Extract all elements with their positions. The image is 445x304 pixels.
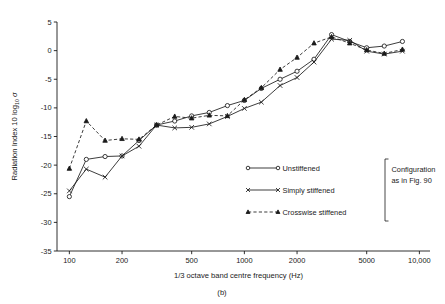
data-point-triangle bbox=[103, 138, 108, 142]
figure-caption: (b) bbox=[217, 288, 227, 297]
y-axis-ticks: 50-5-10-15-20-25-30-35 bbox=[41, 18, 57, 256]
radiation-index-chart: 50-5-10-15-20-25-30-35100200500100020005… bbox=[0, 0, 445, 304]
x-tick-label: 2000 bbox=[289, 256, 305, 265]
configuration-annotation: Configurationas in Fig. 90 bbox=[385, 159, 435, 221]
legend-item-unstiffened[interactable]: Unstiffened bbox=[246, 164, 320, 173]
data-point-circle bbox=[295, 69, 299, 73]
data-point-triangle bbox=[242, 97, 247, 101]
data-point-circle bbox=[382, 44, 386, 48]
data-point-cross bbox=[137, 144, 142, 149]
figure-container: 50-5-10-15-20-25-30-35100200500100020005… bbox=[0, 0, 445, 304]
data-point-cross bbox=[278, 83, 283, 88]
x-tick-label: 200 bbox=[116, 256, 128, 265]
chart-legend: UnstiffenedSimply stiffenedCrosswise sti… bbox=[246, 164, 346, 217]
y-axis-title-suffix: σ bbox=[10, 92, 19, 99]
series-unstiffened bbox=[67, 32, 404, 198]
y-tick-label: -10 bbox=[41, 103, 52, 112]
data-point-cross bbox=[295, 75, 300, 80]
annotation-bracket bbox=[385, 159, 389, 221]
y-tick-label: 5 bbox=[47, 18, 51, 27]
y-tick-label: 0 bbox=[47, 46, 51, 55]
series-crosswise-stiffened bbox=[67, 34, 405, 170]
x-tick-label: 1000 bbox=[236, 256, 252, 265]
series-line bbox=[69, 35, 402, 197]
series-markers bbox=[67, 37, 405, 193]
y-tick-label: -5 bbox=[45, 75, 52, 84]
legend-item-simply-stiffened[interactable]: Simply stiffened bbox=[246, 186, 335, 195]
y-tick-label: -20 bbox=[41, 161, 52, 170]
data-point-circle bbox=[84, 157, 88, 161]
annotation-line-1: Configuration bbox=[392, 165, 436, 174]
data-point-circle bbox=[103, 154, 107, 158]
data-point-triangle bbox=[137, 137, 142, 141]
data-point-circle bbox=[400, 39, 404, 43]
data-point-cross bbox=[242, 106, 247, 111]
x-tick-label: 10,000 bbox=[408, 256, 431, 265]
data-point-circle bbox=[225, 103, 229, 107]
data-point-circle bbox=[246, 166, 250, 170]
data-point-triangle bbox=[312, 41, 317, 45]
data-point-circle bbox=[276, 166, 280, 170]
data-point-triangle bbox=[276, 210, 280, 214]
data-point-triangle bbox=[172, 114, 177, 118]
data-point-circle bbox=[67, 195, 71, 199]
y-tick-label: -35 bbox=[41, 247, 52, 256]
series-simply-stiffened bbox=[67, 37, 405, 193]
chart-axes bbox=[57, 22, 430, 251]
data-point-cross bbox=[84, 167, 89, 172]
legend-label: Simply stiffened bbox=[283, 186, 335, 195]
data-point-triangle bbox=[120, 136, 125, 140]
y-tick-label: -30 bbox=[41, 218, 52, 227]
annotation-line-2: as in Fig. 90 bbox=[392, 176, 432, 185]
series-markers bbox=[67, 32, 404, 198]
y-tick-label: -15 bbox=[41, 132, 52, 141]
y-tick-label: -25 bbox=[41, 189, 52, 198]
data-point-triangle bbox=[225, 113, 230, 117]
legend-label: Crosswise stiffened bbox=[283, 208, 347, 217]
data-point-circle bbox=[278, 77, 282, 81]
x-axis-ticks: 10020050010002000500010,000 bbox=[63, 251, 431, 265]
data-point-triangle bbox=[400, 47, 405, 51]
x-axis-title: 1/3 octave band centre frequency (Hz) bbox=[174, 271, 304, 280]
data-point-triangle bbox=[295, 55, 300, 59]
data-point-circle bbox=[173, 119, 177, 123]
legend-label: Unstiffened bbox=[283, 164, 320, 173]
y-axis-title-text: Radiation Index 10 log10 σ bbox=[10, 92, 20, 180]
axis-lines bbox=[57, 22, 430, 251]
x-tick-label: 500 bbox=[186, 256, 198, 265]
series-markers bbox=[67, 34, 405, 170]
y-axis-title-prefix: Radiation Index 10 log bbox=[10, 105, 19, 181]
data-point-triangle bbox=[246, 210, 250, 214]
data-point-triangle bbox=[84, 119, 89, 123]
data-point-triangle bbox=[278, 67, 283, 71]
data-point-cross bbox=[259, 100, 264, 105]
data-point-triangle bbox=[67, 166, 72, 170]
series-line bbox=[69, 39, 402, 191]
chart-series-group bbox=[67, 32, 405, 198]
data-point-cross bbox=[67, 189, 72, 194]
data-point-cross bbox=[103, 175, 108, 180]
x-tick-label: 5000 bbox=[358, 256, 374, 265]
x-tick-label: 100 bbox=[63, 256, 75, 265]
legend-item-crosswise-stiffened[interactable]: Crosswise stiffened bbox=[246, 208, 346, 217]
y-axis-title: Radiation Index 10 log10 σ bbox=[10, 92, 20, 180]
data-point-triangle bbox=[382, 51, 387, 55]
